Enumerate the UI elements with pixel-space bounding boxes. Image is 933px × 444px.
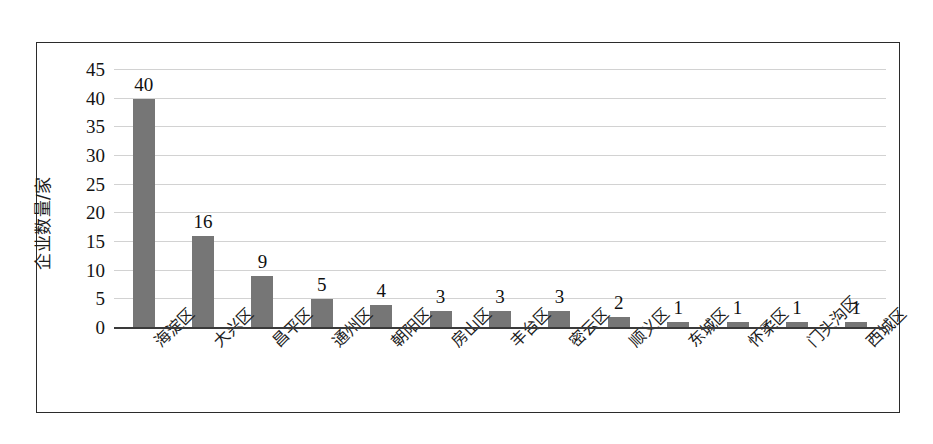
bar-group[interactable]: 2 (608, 70, 630, 328)
bar-group[interactable]: 16 (192, 70, 214, 328)
bar-group[interactable]: 3 (548, 70, 570, 328)
bar-value-label: 4 (376, 280, 386, 302)
bar-group[interactable]: 1 (667, 70, 689, 328)
y-axis-tick-label: 45 (86, 59, 105, 81)
y-axis-tick-label: 35 (86, 116, 105, 138)
bar-value-label: 9 (258, 251, 268, 273)
bar-value-label: 2 (614, 292, 624, 314)
y-axis-tick-label: 5 (96, 288, 106, 310)
bar-value-label: 1 (733, 297, 743, 319)
x-axis-tick-label: 昌平区 (266, 335, 283, 352)
x-axis-line (114, 327, 886, 329)
bar-group[interactable]: 3 (489, 70, 511, 328)
bar-value-label: 40 (134, 74, 153, 96)
bar-group[interactable]: 9 (251, 70, 273, 328)
bar-value-label: 1 (792, 297, 802, 319)
y-axis-tick-label: 10 (86, 260, 105, 282)
x-axis-tick-label: 丰台区 (504, 335, 521, 352)
bar-value-label: 16 (194, 211, 213, 233)
y-axis-tick-label: 30 (86, 145, 105, 167)
bar-group[interactable]: 5 (311, 70, 333, 328)
x-axis-tick-label: 门头沟区 (801, 335, 818, 352)
x-axis-tick-label: 东城区 (682, 335, 699, 352)
bar-value-label: 5 (317, 274, 327, 296)
bar-value-label: 3 (555, 286, 565, 308)
bar-value-label: 3 (436, 286, 446, 308)
bar-group[interactable]: 40 (133, 70, 155, 328)
chart-figure: 企业数量/家 051015202530354045 40169543332111… (36, 42, 900, 413)
bar[interactable] (133, 99, 155, 328)
bar-group[interactable]: 3 (430, 70, 452, 328)
x-axis-tick-label: 海淀区 (148, 335, 165, 352)
x-axis-tick-label: 怀柔区 (742, 335, 759, 352)
bar-group[interactable]: 1 (845, 70, 867, 328)
y-axis-tick-label: 25 (86, 174, 105, 196)
bar-group[interactable]: 4 (370, 70, 392, 328)
bar-group[interactable]: 1 (786, 70, 808, 328)
plot-area: 051015202530354045 401695433321111 海淀区大兴… (114, 70, 886, 328)
x-axis-tick-label: 朝阳区 (385, 335, 402, 352)
bar-value-label: 1 (673, 297, 683, 319)
x-axis-tick-label: 西城区 (860, 335, 877, 352)
y-axis-title: 企业数量/家 (29, 133, 54, 313)
bar-value-label: 3 (495, 286, 505, 308)
bar-group[interactable]: 1 (727, 70, 749, 328)
y-axis-tick-label: 20 (86, 202, 105, 224)
x-axis-tick-label: 密云区 (563, 335, 580, 352)
y-axis-tick-label: 40 (86, 88, 105, 110)
x-axis-tick-label: 顺义区 (623, 335, 640, 352)
bar[interactable] (311, 299, 333, 328)
x-axis-tick-label: 通州区 (326, 335, 343, 352)
x-axis-tick-label: 房山区 (445, 335, 462, 352)
y-axis-tick-label: 0 (96, 317, 106, 339)
y-axis-tick-label: 15 (86, 231, 105, 253)
x-axis-tick-label: 大兴区 (207, 335, 224, 352)
